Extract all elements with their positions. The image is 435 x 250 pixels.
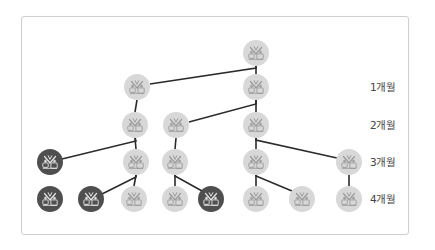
tree-node-r2c <box>243 112 269 138</box>
edge-r2b-r3c <box>175 138 176 149</box>
month-label-4: 4개월 <box>370 193 396 205</box>
tree-node-r3c <box>162 149 188 175</box>
month-label-1: 1개월 <box>370 81 396 93</box>
tree-node-root <box>243 40 269 66</box>
month-label-2: 2개월 <box>370 119 396 131</box>
tree-node-r2b <box>163 112 189 138</box>
tree-node-r4f <box>243 186 269 212</box>
month-label-3: 3개월 <box>370 156 396 168</box>
edge-root-r1a <box>150 66 256 84</box>
tree-node-r1b <box>243 74 269 100</box>
tree-node-r4g <box>289 186 315 212</box>
tree-node-r4e <box>198 186 224 212</box>
tree-node-r4c <box>121 186 147 212</box>
tree-node-r1a <box>124 74 150 100</box>
tree-node-r3a <box>37 149 63 175</box>
tree-node-r4h <box>336 186 362 212</box>
tree-node-r3b <box>123 149 149 175</box>
nodes-layer <box>37 40 362 212</box>
tree-node-r4a <box>37 186 63 212</box>
tree-node-r4d <box>162 186 188 212</box>
tree-node-r3d <box>243 149 269 175</box>
tree-node-r2a <box>122 112 148 138</box>
edge-r2c-r3e <box>256 138 337 158</box>
edge-r1a-r2a <box>135 100 137 112</box>
edges-layer <box>62 66 349 194</box>
tree-node-r4b <box>78 186 104 212</box>
tree-node-r3e <box>336 149 362 175</box>
